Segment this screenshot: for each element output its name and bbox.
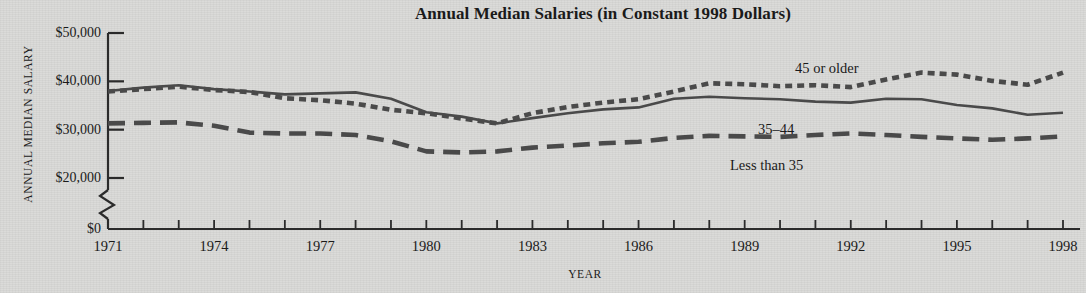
y-axis-break-icon xyxy=(100,190,114,219)
x-tick-label: 1971 xyxy=(73,238,143,255)
x-tick-label: 1995 xyxy=(922,238,992,255)
x-tick-label: 1986 xyxy=(604,238,674,255)
x-tick-label: 1983 xyxy=(497,238,567,255)
x-tick-label: 1989 xyxy=(710,238,780,255)
series-label-35-44: 35–44 xyxy=(758,121,794,138)
series-line-2 xyxy=(108,122,1063,152)
chart-figure: Annual Median Salaries (in Constant 1998… xyxy=(0,0,1086,293)
series-label-45-or-older: 45 or older xyxy=(795,60,859,77)
x-tick-label: 1980 xyxy=(391,238,461,255)
x-tick-label: 1974 xyxy=(179,238,249,255)
x-tick-label: 1998 xyxy=(1028,238,1086,255)
series-label-less-than-35: Less than 35 xyxy=(730,157,803,174)
x-tick-label: 1977 xyxy=(285,238,355,255)
x-tick-label: 1992 xyxy=(816,238,886,255)
